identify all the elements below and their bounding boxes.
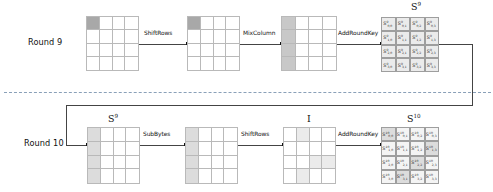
state-s10-cell-r3-c0: S103,0: [381, 170, 396, 184]
connector-r10-addroundkey: [336, 145, 381, 146]
op-label-r9-shiftrows: ShiftRows: [143, 30, 173, 36]
aes-rounds-diagram: Round 9 ShiftRows MixColumn AddRoundKey …: [0, 0, 493, 192]
state-heading-s9: S9: [411, 1, 421, 12]
round10-input-cell-r0-c0: [88, 128, 101, 142]
state-s9-cell-r3-c1: S93,1: [396, 58, 411, 72]
round9-input-cell-r3-c0: [87, 57, 100, 70]
round9-shiftrows-cell-r0-c2: [214, 17, 227, 30]
state-s9-cell-r2-c0: S92,0: [381, 45, 396, 59]
round9-input-cell-r0-c1: [100, 17, 113, 30]
grid-round10-subbytes-output: [185, 127, 238, 184]
state-s10-cell-r3-c2: S103,2: [410, 170, 425, 184]
round9-shiftrows-cell-r3-c3: [226, 57, 239, 70]
state-s9-cell-r2-c1: S92,1: [396, 45, 411, 59]
round9-mixcolumn-cell-r3-c2: [309, 57, 323, 70]
round9-input-cell-r3-c1: [100, 57, 113, 70]
round10-subbytes-cell-r2-c0: [186, 156, 199, 170]
round10-subbytes-cell-r3-c0: [186, 169, 199, 183]
round10-subbytes-cell-r0-c2: [212, 128, 225, 142]
state-matrix-s10: S100,0S100,1S100,2S100,3S101,0S101,1S101…: [381, 127, 439, 184]
route-s9-out-right: [439, 44, 472, 45]
state-s9-cell-r0-c3: S90,3: [425, 17, 440, 31]
state-s10-cell-r1-c3: S101,3: [425, 141, 440, 155]
route-s9-down-to-round10: [66, 105, 67, 145]
round9-input-cell-r2-c0: [87, 44, 100, 57]
round9-mixcolumn-cell-r2-c2: [309, 44, 323, 57]
round10-input-cell-r1-c3: [126, 142, 139, 156]
round10-subbytes-cell-r3-c3: [224, 169, 237, 183]
round9-shiftrows-cell-r0-c1: [201, 17, 214, 30]
round10-input-cell-r0-c1: [101, 128, 114, 142]
round10-shiftrows-cell-r1-c0: [284, 142, 297, 156]
round9-shiftrows-cell-r1-c0: [188, 30, 201, 43]
round9-input-cell-r1-c2: [113, 30, 126, 43]
round-9-label: Round 9: [28, 37, 62, 47]
round10-input-cell-r2-c2: [114, 156, 127, 170]
round9-shiftrows-cell-r3-c0: [188, 57, 201, 70]
state-heading-s9-superscript: 9: [418, 1, 422, 7]
round10-subbytes-cell-r3-c2: [212, 169, 225, 183]
state-s10-cell-r1-c1: S101,1: [396, 141, 411, 155]
round10-input-cell-r3-c0: [88, 169, 101, 183]
round9-shiftrows-cell-r2-c0: [188, 44, 201, 57]
round10-shiftrows-cell-r2-c2: [310, 156, 323, 170]
round-separator: [4, 92, 491, 93]
round10-subbytes-cell-r0-c3: [224, 128, 237, 142]
op-label-r9-addroundkey: AddRoundKey: [337, 30, 379, 36]
round10-input-cell-r2-c3: [126, 156, 139, 170]
round10-input-cell-r3-c2: [114, 169, 127, 183]
round9-mixcolumn-cell-r0-c2: [309, 17, 323, 30]
round10-shiftrows-cell-r3-c2: [310, 169, 323, 183]
connector-r9-shiftrows: [139, 44, 187, 45]
op-label-r10-addroundkey: AddRoundKey: [337, 131, 379, 137]
round10-input-cell-r3-c3: [126, 169, 139, 183]
round10-subbytes-cell-r2-c2: [212, 156, 225, 170]
round10-shiftrows-cell-r0-c0: [284, 128, 297, 142]
state-s10-cell-r2-c0: S102,0: [381, 156, 396, 170]
round9-input-cell-r1-c3: [125, 30, 138, 43]
state-s9-cell-r1-c3: S91,3: [425, 31, 440, 45]
round10-shiftrows-cell-r3-c0: [284, 169, 297, 183]
state-s9-cell-r2-c3: S92,3: [425, 45, 440, 59]
state-s10-cell-r2-c2: S102,2: [410, 156, 425, 170]
round9-input-cell-r1-c0: [87, 30, 100, 43]
round10-subbytes-cell-r0-c0: [186, 128, 199, 142]
round9-mixcolumn-cell-r0-c1: [296, 17, 310, 30]
round10-input-cell-r1-c1: [101, 142, 114, 156]
state-s9-cell-r0-c0: S90,0: [381, 17, 396, 31]
round9-input-cell-r2-c1: [100, 44, 113, 57]
state-s10-cell-r3-c3: S103,3: [425, 170, 440, 184]
round10-subbytes-cell-r0-c1: [199, 128, 212, 142]
round9-shiftrows-cell-r1-c3: [226, 30, 239, 43]
round9-shiftrows-cell-r2-c3: [226, 44, 239, 57]
round10-input-cell-r0-c3: [126, 128, 139, 142]
round9-mixcolumn-cell-r1-c2: [309, 30, 323, 43]
round10-input-cell-r3-c1: [101, 169, 114, 183]
state-s10-cell-r1-c2: S101,2: [410, 141, 425, 155]
state-s10-cell-r2-c3: S102,3: [425, 156, 440, 170]
round-10-label: Round 10: [24, 138, 64, 148]
state-s9-cell-r3-c0: S93,0: [381, 58, 396, 72]
route-s9-down: [472, 44, 473, 106]
connector-r9-mixcolumn: [240, 44, 281, 45]
op-label-r10-subbytes: SubBytes: [142, 131, 171, 137]
state-heading-round10-input: S9: [108, 113, 118, 124]
state-s10-cell-r0-c0: S100,0: [381, 127, 396, 141]
state-heading-s10: S10: [407, 113, 421, 124]
round10-subbytes-cell-r2-c3: [224, 156, 237, 170]
round10-input-cell-r1-c2: [114, 142, 127, 156]
round10-input-cell-r0-c2: [114, 128, 127, 142]
grid-round10-input: [87, 127, 140, 184]
connector-r10-shiftrows: [238, 145, 283, 146]
round9-input-cell-r0-c2: [113, 17, 126, 30]
state-s10-cell-r1-c0: S101,0: [381, 141, 396, 155]
state-s10-cell-r0-c1: S100,1: [396, 127, 411, 141]
round9-mixcolumn-cell-r2-c1: [296, 44, 310, 57]
round10-shiftrows-cell-r2-c0: [284, 156, 297, 170]
grid-round9-mixcolumn-output: [281, 16, 337, 71]
round10-input-cell-r1-c0: [88, 142, 101, 156]
round10-subbytes-cell-r1-c3: [224, 142, 237, 156]
state-s9-cell-r3-c3: S93,3: [425, 58, 440, 72]
round9-mixcolumn-cell-r3-c1: [296, 57, 310, 70]
round10-subbytes-cell-r1-c0: [186, 142, 199, 156]
